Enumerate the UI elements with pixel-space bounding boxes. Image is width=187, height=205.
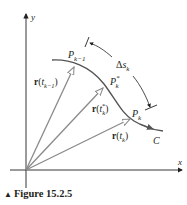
label-r-t-k-star: r(t*k) <box>92 102 108 116</box>
curve-c <box>52 60 163 131</box>
arc-start-tick <box>85 37 89 47</box>
caption-text: Figure 15.2.5 <box>14 188 72 199</box>
label-p-k-minus-1: Pk−1 <box>67 49 85 63</box>
vector-r-t-k-star <box>26 88 103 170</box>
arc-length-diagram: x y Δsk Pk−1 P*k Pk C r(tk−1) r(t*k) r(t… <box>0 0 187 205</box>
arc-length-indicator: Δsk <box>85 37 157 110</box>
y-axis-label: y <box>30 12 35 22</box>
vector-r-t-k <box>26 119 130 170</box>
label-curve-c: C <box>153 135 160 146</box>
delta-s-k-label: Δsk <box>116 59 130 73</box>
triangle-marker-icon: ▲ <box>4 190 12 199</box>
axes: x y <box>10 12 182 188</box>
arc-upper-segment <box>90 43 112 57</box>
x-axis-label: x <box>177 157 182 167</box>
curve-direction-arrow-icon <box>140 124 153 129</box>
arc-end-tick <box>145 105 157 110</box>
label-r-t-k: r(tk) <box>112 131 128 143</box>
arc-lower-segment <box>133 76 150 107</box>
label-r-t-k-minus-1: r(tk−1) <box>34 77 58 89</box>
figure-caption: ▲Figure 15.2.5 <box>4 188 72 199</box>
label-p-k-star: P*k <box>109 74 120 90</box>
